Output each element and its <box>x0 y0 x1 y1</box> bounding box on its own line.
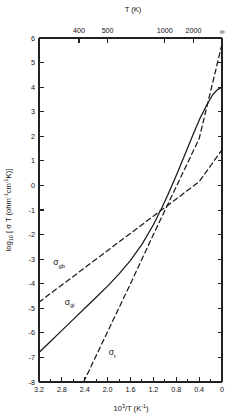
y-tick-label-8: -2 <box>29 230 35 239</box>
top-tick-label-1: 500 <box>102 26 114 35</box>
x-axis-title-mid: /T (K <box>125 404 141 413</box>
y-tick-label-11: -5 <box>29 304 35 313</box>
y-tick-label-5: 1 <box>31 156 35 165</box>
y-tick-label-3: 3 <box>31 107 35 116</box>
x-tick-label-8: 0 <box>220 385 224 394</box>
y-tick-label-10: -4 <box>29 279 35 288</box>
x-tick-label-2: 2.4 <box>80 385 90 394</box>
y-axis-title-mid2: cm <box>4 183 13 193</box>
y-axis-title-mid: [ σ T (ohm <box>4 198 13 235</box>
y-tick-label-13: -7 <box>29 353 35 362</box>
chart-background <box>0 0 245 419</box>
conductivity-arrhenius-plot: 40050010002000∞ 3.22.82.42.01.61.20.80.4… <box>0 0 245 419</box>
y-tick-label-14: -8 <box>29 378 35 387</box>
x-tick-label-0: 3.2 <box>34 385 44 394</box>
sigma_gb_label-subscript: gb <box>59 263 65 269</box>
x-tick-label-3: 2.0 <box>103 385 113 394</box>
y-axis-title-pre: log <box>4 241 13 251</box>
y-tick-label-7: -1 <box>29 206 35 215</box>
x-tick-label-5: 1.2 <box>148 385 158 394</box>
x-axis-title-pre: 10 <box>113 404 121 413</box>
top-tick-label-4: ∞ <box>219 27 224 36</box>
top-tick-label-2: 1000 <box>157 26 173 35</box>
x-tick-label-7: 0.4 <box>194 385 204 394</box>
y-tick-label-2: 4 <box>31 83 35 92</box>
x-tick-label-4: 1.6 <box>126 385 136 394</box>
x-tick-label-1: 2.8 <box>57 385 67 394</box>
top-tick-label-0: 400 <box>73 26 85 35</box>
top-axis-title: T (K) <box>125 5 142 14</box>
y-tick-label-6: 0 <box>31 181 35 190</box>
y-tick-label-4: 2 <box>31 132 35 141</box>
y-axis-title-post: K)] <box>4 169 13 179</box>
top-tick-label-3: 2000 <box>185 26 201 35</box>
chart-figure: 40050010002000∞ 3.22.82.42.01.61.20.80.4… <box>0 0 245 419</box>
y-tick-label-0: 6 <box>31 34 35 43</box>
y-tick-label-9: -3 <box>29 255 35 264</box>
y-tick-label-1: 5 <box>31 58 35 67</box>
y-tick-label-12: -6 <box>29 328 35 337</box>
x-tick-label-6: 0.8 <box>171 385 181 394</box>
sigma_t_label-subscript: gi <box>70 302 75 308</box>
